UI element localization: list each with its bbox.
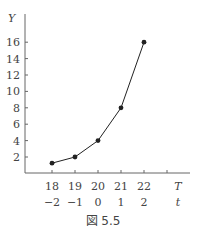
ticks — [25, 42, 167, 173]
axes — [25, 14, 190, 173]
y-tick-label: 16 — [6, 36, 20, 49]
data-point-marker — [119, 105, 124, 110]
x-secondary-tick-label: −2 — [44, 196, 60, 209]
y-tick-label: 8 — [13, 102, 20, 115]
y-tick-label: 4 — [13, 135, 20, 148]
series-line — [52, 42, 144, 163]
y-tick-label: 10 — [6, 85, 20, 98]
y-tick-label: 12 — [6, 69, 20, 82]
x-secondary-axis-label: t — [176, 196, 181, 209]
x-tick-label: 22 — [137, 180, 151, 193]
x-secondary-tick-label: 0 — [95, 196, 102, 209]
tick-labels: 246810121416Y18−219−1200211222Tt — [6, 12, 183, 209]
y-tick-label: 6 — [13, 118, 20, 131]
y-tick-label: 2 — [13, 151, 20, 164]
data-point-marker — [96, 138, 101, 143]
data-point-marker — [50, 161, 55, 166]
figure-caption: 図 5.5 — [0, 211, 206, 228]
data-point-marker — [142, 40, 147, 45]
x-secondary-tick-label: 2 — [141, 196, 148, 209]
x-secondary-tick-label: −1 — [67, 196, 83, 209]
data-series — [50, 40, 147, 166]
line-chart: 246810121416Y18−219−1200211222Tt — [0, 0, 206, 242]
x-tick-label: 19 — [68, 180, 82, 193]
x-secondary-tick-label: 1 — [118, 196, 125, 209]
data-point-marker — [73, 155, 78, 160]
y-axis-label: Y — [8, 12, 17, 25]
x-tick-label: 20 — [91, 180, 105, 193]
x-axis-label: T — [174, 180, 183, 193]
x-tick-label: 21 — [114, 180, 128, 193]
x-tick-label: 18 — [45, 180, 59, 193]
y-tick-label: 14 — [6, 53, 20, 66]
